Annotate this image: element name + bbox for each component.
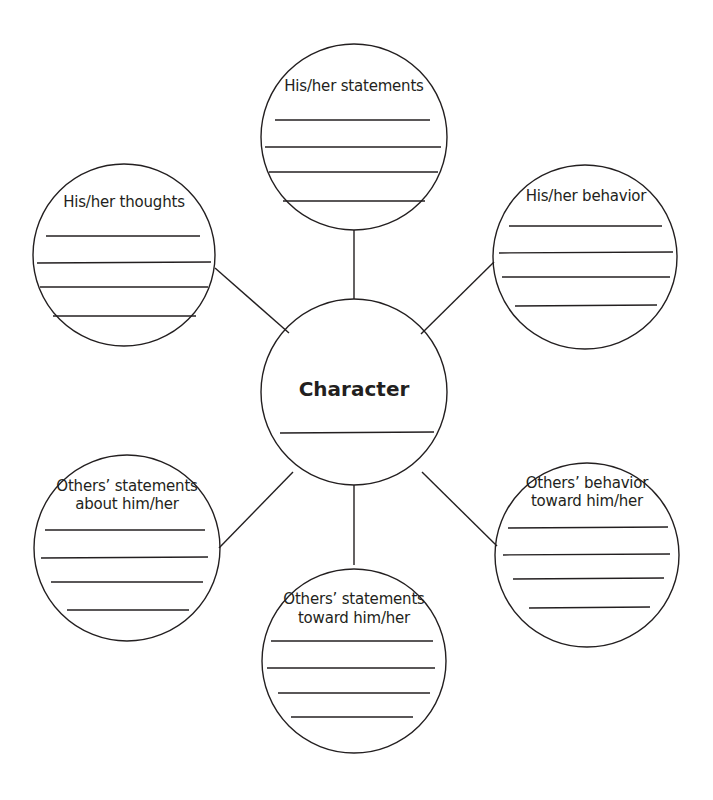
connector-lower-left [219,472,293,548]
blank-line[interactable] [37,262,211,263]
blank-line[interactable] [529,607,650,608]
node-label-upper-left: His/her thoughts [34,193,214,212]
connector-lower-right [422,472,497,546]
connector-upper-left [215,268,289,333]
node-label-bottom-line1: Others’ statements [262,590,446,609]
node-label-bottom-line2: toward him/her [262,609,446,628]
center-blank-line[interactable] [280,432,434,433]
blank-line[interactable] [513,578,664,579]
node-label-lower-left-line2: about him/her [34,495,220,514]
blank-line[interactable] [508,527,668,528]
node-circle-top [261,44,447,230]
node-label-lower-right-line1: Others’ behavior [496,474,678,493]
node-label-lower-right-line2: toward him/her [496,492,678,511]
node-label-top: His/her statements [264,77,444,96]
connector-upper-right [421,262,494,334]
node-label-lower-left-line1: Others’ statements [34,477,220,496]
node-circle-upper-left [33,164,215,346]
blank-line[interactable] [515,305,657,306]
center-title: Character [264,377,444,401]
blank-line[interactable] [41,557,208,558]
node-label-upper-right: His/her behavior [496,187,676,206]
blank-line[interactable] [503,554,670,555]
blank-line[interactable] [499,252,673,253]
